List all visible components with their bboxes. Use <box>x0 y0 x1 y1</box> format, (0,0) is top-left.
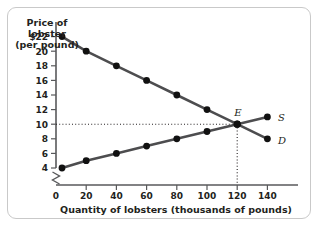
y-axis-title-line-3: (per pound) <box>15 39 79 50</box>
supply-data-point <box>59 165 66 172</box>
x-tick-label: 100 <box>198 191 217 201</box>
y-axis-title-line-2: lobster <box>28 28 66 39</box>
x-tick-label: 80 <box>171 191 184 201</box>
x-tick-group: 0 20 40 60 80 100 120 140 <box>53 185 277 201</box>
y-axis-title-line-1: Price of <box>27 17 69 28</box>
demand-data-point <box>83 48 90 55</box>
demand-data-point <box>173 92 180 99</box>
demand-curve-label: D <box>277 135 286 146</box>
supply-data-point <box>83 157 90 164</box>
x-tick-label: 0 <box>53 191 59 201</box>
x-tick-label: 120 <box>228 191 247 201</box>
supply-data-point <box>264 114 271 121</box>
y-tick-label: 6 <box>42 149 48 159</box>
supply-demand-chart: 4 6 8 10 12 14 16 18 20 $22 0 20 <box>8 8 312 220</box>
y-tick-label: 16 <box>35 76 48 86</box>
demand-curve[interactable]: D <box>59 33 286 146</box>
demand-data-point <box>264 135 271 142</box>
y-tick-group: 4 6 8 10 12 14 16 18 20 $22 <box>29 32 56 173</box>
supply-data-point <box>113 150 120 157</box>
x-axis-title: Quantity of lobsters (thousands of pound… <box>60 204 292 215</box>
y-tick-label: 8 <box>42 134 48 144</box>
demand-data-point <box>204 106 211 113</box>
supply-data-point <box>204 128 211 135</box>
supply-data-point <box>143 143 150 150</box>
x-tick-label: 20 <box>80 191 93 201</box>
y-axis-title: Price of lobster (per pound) <box>15 17 79 50</box>
demand-data-point <box>143 77 150 84</box>
x-tick-label: 40 <box>110 191 123 201</box>
supply-curve-label: S <box>278 112 285 123</box>
y-tick-label: 18 <box>35 61 48 71</box>
y-tick-label: 4 <box>42 163 48 173</box>
y-tick-label: 10 <box>35 120 48 130</box>
figure-frame: 4 6 8 10 12 14 16 18 20 $22 0 20 <box>7 7 311 219</box>
supply-data-point <box>173 135 180 142</box>
equilibrium-label: E <box>233 107 242 118</box>
equilibrium-guides <box>56 124 237 185</box>
demand-data-point <box>113 62 120 69</box>
y-tick-label: 14 <box>35 90 48 100</box>
y-axis-break-icon <box>53 172 60 184</box>
x-tick-label: 60 <box>140 191 153 201</box>
y-tick-label: 12 <box>35 105 48 115</box>
supply-curve[interactable]: S <box>59 112 285 171</box>
equilibrium-point <box>234 121 241 128</box>
x-tick-label: 140 <box>258 191 277 201</box>
